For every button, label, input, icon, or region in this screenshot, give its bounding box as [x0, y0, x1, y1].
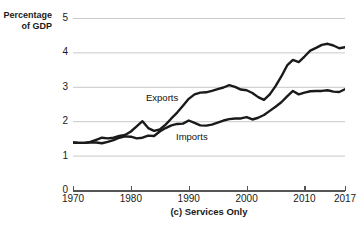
x-axis-tick-label: 2010 [287, 193, 321, 205]
line-imports [73, 89, 345, 143]
chart-caption: (c) Services Only [73, 206, 345, 217]
y-axis-tick-label: 2 [52, 116, 68, 126]
chart-figure: Percentage of GDP 012345 197019801990200… [0, 0, 359, 231]
x-axis-tick-label: 1990 [172, 193, 206, 205]
y-axis-title: Percentage of GDP [0, 10, 52, 32]
y-axis-tick-label: 5 [52, 13, 68, 23]
gridlines [73, 19, 345, 157]
x-axis-tick-label: 1980 [114, 193, 148, 205]
x-axis-tick-label: 1970 [56, 193, 90, 205]
x-axis-tick-label: 2000 [230, 193, 264, 205]
x-axis-tick [189, 186, 190, 191]
series-label-exports: Exports [146, 92, 178, 103]
plot-area [73, 18, 345, 190]
y-axis-title-line2: of GDP [0, 21, 52, 32]
x-axis-tick [304, 186, 305, 191]
y-axis-title-line1: Percentage [0, 10, 52, 21]
x-axis-tick-label: 2017 [328, 193, 359, 205]
data-series [73, 44, 345, 143]
y-axis-tick-label: 3 [52, 82, 68, 92]
x-axis-tick [73, 186, 74, 191]
series-label-imports: Imports [176, 131, 208, 142]
x-axis-tick [247, 186, 248, 191]
x-axis-tick [345, 186, 346, 191]
x-axis-tick [131, 186, 132, 191]
y-axis-tick-label: 1 [52, 151, 68, 161]
y-axis-tick-label: 4 [52, 47, 68, 57]
chart-canvas [73, 18, 345, 190]
